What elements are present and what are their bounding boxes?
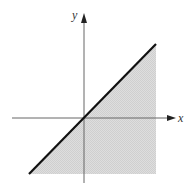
y-axis-arrow-icon [81, 13, 87, 23]
x-axis-label: x [177, 111, 184, 125]
y-axis-label: y [71, 8, 78, 22]
graph-figure: x y [0, 0, 195, 188]
x-axis-arrow-icon [167, 115, 176, 121]
